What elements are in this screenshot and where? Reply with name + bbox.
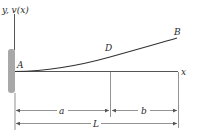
point-label-d: D (104, 43, 112, 53)
beam-diagram: y, v(x) x A D B a b L (0, 0, 212, 138)
point-label-a: A (16, 60, 24, 70)
y-axis-label: y, v(x) (1, 5, 29, 15)
x-axis-label: x (181, 67, 186, 77)
point-label-b: B (173, 27, 181, 37)
dim-l-label: L (92, 119, 99, 129)
dim-b-label: b (141, 106, 147, 116)
fixed-wall-support (8, 49, 15, 93)
deflection-curve (15, 38, 177, 72)
dim-a-label: a (59, 106, 64, 116)
